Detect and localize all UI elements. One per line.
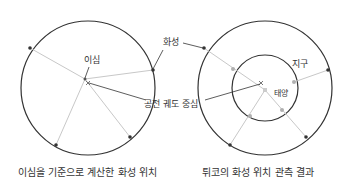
mars-point (28, 46, 32, 50)
leader-line-mars (183, 43, 203, 48)
leader-line-mars (153, 50, 163, 69)
earth-point (231, 67, 235, 71)
label-earth: 지구 (292, 60, 308, 69)
mars-point (54, 143, 58, 147)
label-mars: 화성 (163, 38, 179, 47)
mars-point (304, 135, 308, 139)
ray (56, 79, 85, 145)
left-diagram (21, 21, 163, 155)
mars-point (128, 135, 132, 139)
label-orbit-center: 공전 궤도 중심 (144, 100, 198, 109)
mars-point (228, 143, 232, 147)
mars-orbit-circle (21, 21, 155, 155)
leader-line-eccentric (85, 67, 89, 78)
label-eccentric: 이심 (84, 56, 100, 65)
ray (85, 70, 153, 79)
earth-point (280, 108, 284, 112)
mars-point (326, 68, 330, 72)
sightline (294, 70, 328, 82)
earth-point (248, 114, 252, 118)
ray (30, 48, 85, 79)
sun-icon (263, 88, 267, 92)
earth-point (292, 80, 296, 84)
sightline (230, 90, 265, 145)
label-sun: 태양 (274, 90, 288, 98)
caption-right: 튀코의 화성 위치 관측 결과 (202, 168, 314, 178)
caption-left: 이심을 기준으로 계산한 화성 위치 (18, 168, 157, 178)
diagram-canvas (0, 0, 348, 191)
leader-line-orbit-center (89, 83, 146, 100)
ray (85, 79, 130, 137)
right-diagram (183, 21, 332, 155)
